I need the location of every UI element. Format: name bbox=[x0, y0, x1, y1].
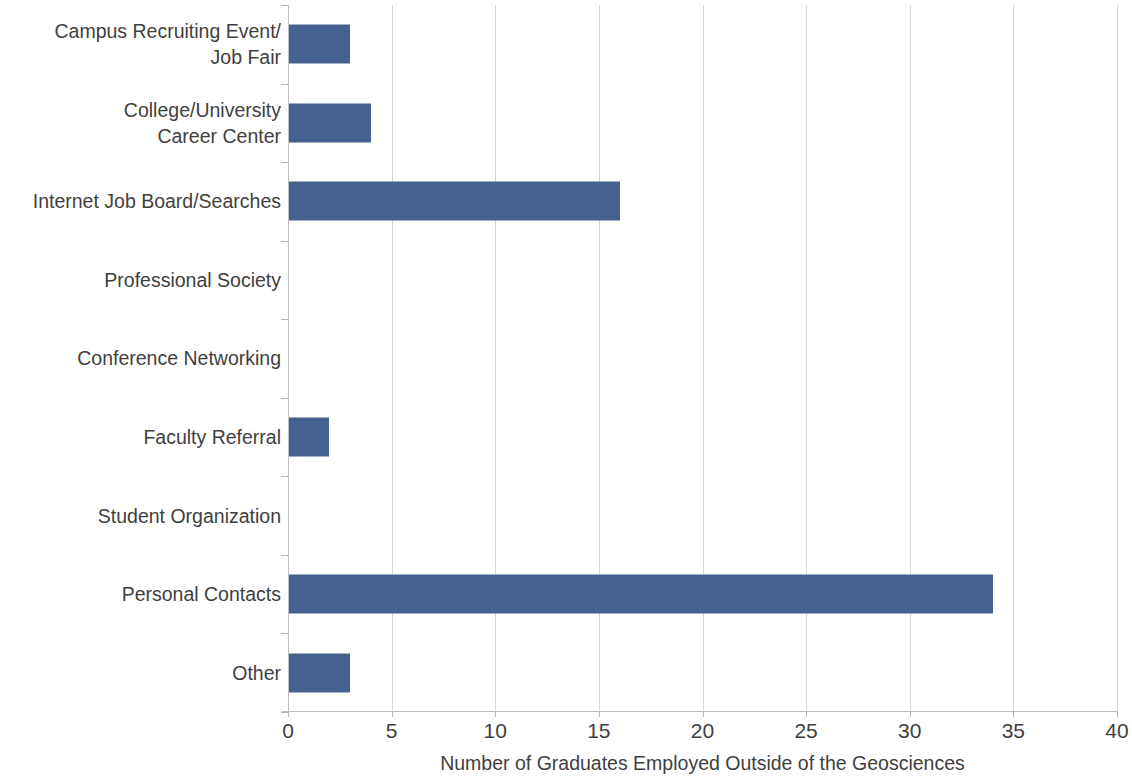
category-label-text: College/University Career Center bbox=[124, 97, 288, 149]
category-label-text: Campus Recruiting Event/ Job Fair bbox=[54, 18, 288, 70]
plot-area bbox=[288, 5, 1117, 712]
category-label-text: Faculty Referral bbox=[143, 424, 288, 450]
category-label-text: Other bbox=[232, 660, 288, 686]
category-label: Professional Society bbox=[0, 241, 288, 320]
bar[interactable] bbox=[288, 653, 350, 692]
bar-band bbox=[288, 84, 1117, 163]
category-label-text: Student Organization bbox=[98, 503, 288, 529]
bar-band bbox=[288, 319, 1117, 398]
x-axis-line bbox=[282, 711, 1117, 712]
category-label: Conference Networking bbox=[0, 319, 288, 398]
x-axis-tick-label: 10 bbox=[484, 717, 507, 745]
gridline bbox=[1117, 5, 1118, 712]
category-label: Other bbox=[0, 633, 288, 712]
category-label-text: Professional Society bbox=[104, 267, 288, 293]
category-label-text: Internet Job Board/Searches bbox=[33, 188, 288, 214]
x-axis-tick-label: 40 bbox=[1105, 717, 1128, 745]
x-axis-title: Number of Graduates Employed Outside of … bbox=[288, 750, 1117, 776]
category-label: Student Organization bbox=[0, 476, 288, 555]
x-axis-tick-label: 15 bbox=[587, 717, 610, 745]
x-axis-tick-label: 5 bbox=[386, 717, 398, 745]
bar-band bbox=[288, 5, 1117, 84]
bar[interactable] bbox=[288, 25, 350, 64]
category-label: Campus Recruiting Event/ Job Fair bbox=[0, 5, 288, 84]
x-axis-tick-label: 20 bbox=[691, 717, 714, 745]
y-axis-tick bbox=[281, 712, 288, 713]
bar-band bbox=[288, 398, 1117, 477]
x-axis-tick-label: 35 bbox=[1002, 717, 1025, 745]
x-axis-tick-label: 0 bbox=[282, 717, 294, 745]
bar-band bbox=[288, 633, 1117, 712]
category-label: Faculty Referral bbox=[0, 398, 288, 477]
category-label: Internet Job Board/Searches bbox=[0, 162, 288, 241]
x-axis-tick-label: 30 bbox=[898, 717, 921, 745]
bar-band bbox=[288, 241, 1117, 320]
category-label: College/University Career Center bbox=[0, 84, 288, 163]
bar-band bbox=[288, 555, 1117, 634]
horizontal-bar-chart: Campus Recruiting Event/ Job FairCollege… bbox=[0, 0, 1132, 781]
category-label-text: Personal Contacts bbox=[122, 581, 288, 607]
bar-band bbox=[288, 162, 1117, 241]
x-axis-tick-label: 25 bbox=[794, 717, 817, 745]
bar[interactable] bbox=[288, 103, 371, 142]
category-label: Personal Contacts bbox=[0, 555, 288, 634]
category-label-text: Conference Networking bbox=[77, 345, 288, 371]
bar[interactable] bbox=[288, 418, 329, 457]
bar-band bbox=[288, 476, 1117, 555]
y-axis-line bbox=[288, 5, 289, 712]
bar[interactable] bbox=[288, 575, 993, 614]
bar[interactable] bbox=[288, 182, 620, 221]
